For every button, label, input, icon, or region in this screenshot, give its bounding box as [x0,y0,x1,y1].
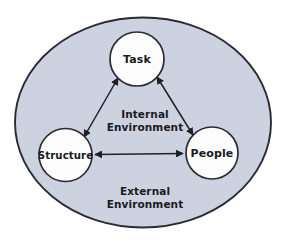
node-structure[interactable]: Structure [38,129,93,182]
internal-environment-label-line2: Environment [107,121,184,133]
node-people-label: People [191,147,234,160]
diagram-canvas: Internal Environment External Environmen… [0,0,282,245]
connector-structure-people [95,154,183,155]
internal-environment-label-line1: Internal [121,108,169,120]
node-people[interactable]: People [186,127,238,179]
organizational-system-diagram: Internal Environment External Environmen… [0,0,282,245]
external-environment-label-line2: Environment [107,198,184,210]
node-task-label: Task [123,53,151,66]
node-structure-label: Structure [38,150,93,161]
external-environment-label-line1: External [120,185,170,197]
node-task[interactable]: Task [110,32,164,86]
